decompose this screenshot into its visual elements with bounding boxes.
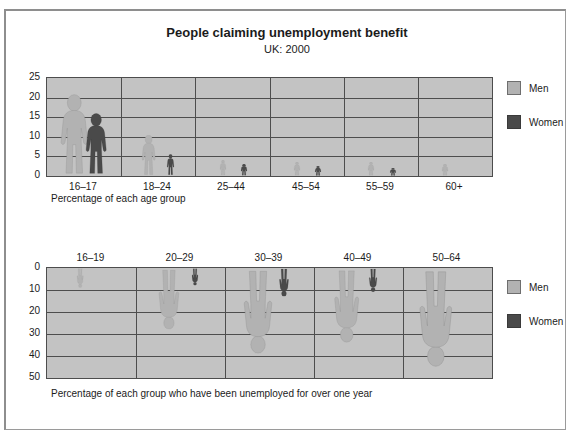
legend-swatch-men-icon (507, 280, 521, 294)
figure-page: People claiming unemployment benefit UK:… (0, 0, 570, 434)
x-axis-tick-label: 30–39 (224, 252, 313, 263)
pictogram-women-20–29 (191, 268, 199, 286)
x-axis-tick-label: 50–64 (402, 252, 491, 263)
y-axis-tick-label: 30 (14, 328, 40, 338)
y-axis-tick-label: 0 (14, 262, 40, 272)
y-axis-tick-label: 20 (14, 306, 40, 316)
legend-swatch-women-icon (507, 314, 521, 328)
category-divider (136, 268, 137, 378)
legend-label-men: Men (529, 282, 548, 293)
category-divider (403, 268, 404, 378)
pictogram-men-40–49 (331, 268, 362, 343)
chart-bottom: 01020304050 16–1920–2930–3940–4950–64 Pe… (6, 11, 568, 431)
pictogram-men-50–64 (415, 268, 457, 367)
chart-bottom-plot-area (46, 267, 493, 379)
pictogram-men-16–19 (76, 268, 84, 288)
y-axis-tick-label: 40 (14, 350, 40, 360)
y-axis-tick-label: 50 (14, 372, 40, 382)
pictogram-men-30–39 (240, 268, 276, 354)
x-axis-tick-label: 16–19 (46, 252, 135, 263)
y-axis-tick-label: 10 (14, 284, 40, 294)
x-axis-tick-label: 40–49 (313, 252, 402, 263)
category-divider (314, 268, 315, 378)
x-axis-tick-label: 20–29 (135, 252, 224, 263)
figure-panel: People claiming unemployment benefit UK:… (4, 9, 566, 430)
pictogram-women-40–49 (368, 268, 378, 292)
pictogram-women-30–39 (278, 268, 290, 297)
category-divider (225, 268, 226, 378)
pictogram-men-20–29 (156, 268, 182, 330)
legend-label-women: Women (529, 316, 563, 327)
chart-bottom-x-label: Percentage of each group who have been u… (51, 388, 372, 399)
